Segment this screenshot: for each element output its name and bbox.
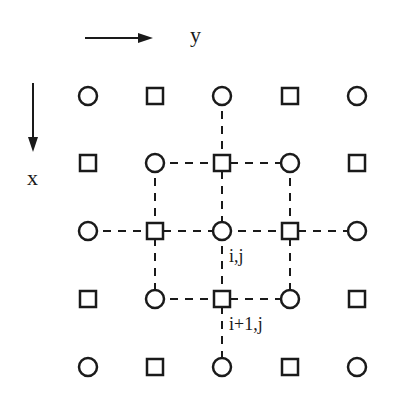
- circle-node-icon: [79, 87, 97, 105]
- x-direction-arrow-icon: [28, 83, 38, 152]
- center-node-label: i,j: [229, 246, 244, 267]
- square-node-icon: [214, 291, 230, 307]
- circle-node-icon: [213, 87, 231, 105]
- square-node-icon: [282, 223, 298, 239]
- square-node-icon: [80, 155, 96, 171]
- circle-node-icon: [348, 87, 366, 105]
- circle-node-icon: [79, 222, 97, 240]
- square-node-icon: [80, 291, 96, 307]
- circle-node-icon: [213, 358, 231, 376]
- x-axis-label: x: [27, 165, 38, 191]
- circle-node-icon: [79, 358, 97, 376]
- square-node-icon: [147, 88, 163, 104]
- grid-canvas: [0, 0, 393, 400]
- y-axis-label: y: [190, 22, 201, 48]
- square-node-icon: [349, 291, 365, 307]
- square-node-icon: [214, 155, 230, 171]
- circle-node-icon: [281, 154, 299, 172]
- square-node-icon: [349, 155, 365, 171]
- square-node-icon: [147, 223, 163, 239]
- circle-node-icon: [281, 290, 299, 308]
- y-direction-arrow-icon: [85, 33, 153, 43]
- circle-node-icon: [348, 358, 366, 376]
- below-node-label: i+1,j: [229, 314, 263, 335]
- circle-node-icon: [213, 222, 231, 240]
- square-node-icon: [282, 359, 298, 375]
- square-node-icon: [282, 88, 298, 104]
- circle-node-icon: [348, 222, 366, 240]
- circle-node-icon: [146, 154, 164, 172]
- staggered-grid-diagram: y x i,j i+1,j: [0, 0, 393, 400]
- square-node-icon: [147, 359, 163, 375]
- circle-node-icon: [146, 290, 164, 308]
